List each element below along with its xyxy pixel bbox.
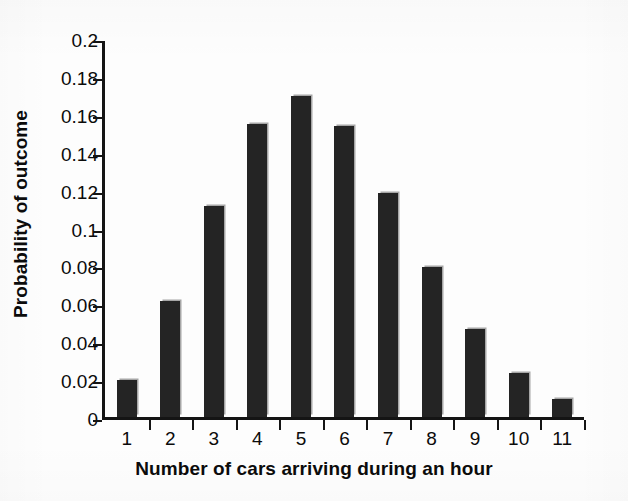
x-axis-tick-label: 3: [209, 428, 220, 450]
y-axis-tick-label: 0.12: [40, 182, 98, 204]
bar: [552, 399, 572, 417]
bar: [378, 193, 398, 417]
y-axis-tick-mark: [93, 231, 102, 233]
y-axis-tick-mark: [93, 382, 102, 384]
y-axis-tick-label: 0.06: [40, 295, 98, 317]
y-axis-tick-mark: [93, 117, 102, 119]
y-axis-tick-mark: [93, 155, 102, 157]
y-axis-tick-mark: [93, 344, 102, 346]
x-axis-tick-label: 7: [383, 428, 394, 450]
y-axis-tick-label: 0.1: [40, 220, 98, 242]
plot-area: [102, 41, 584, 420]
bar: [117, 380, 137, 417]
x-axis-title: Number of cars arriving during an hour: [0, 458, 628, 480]
x-axis-tick-label: 6: [339, 428, 350, 450]
bar-slot: [323, 41, 367, 417]
x-axis-tick-label: 4: [252, 428, 263, 450]
bar: [509, 373, 529, 417]
y-axis-title: Probability of outcome: [4, 4, 38, 424]
y-axis-tick-mark: [93, 420, 102, 422]
y-axis-tick-label: 0.2: [40, 30, 98, 52]
bar-slot: [453, 41, 497, 417]
bar: [204, 206, 224, 417]
y-axis-tick-label: 0.04: [40, 333, 98, 355]
bar-chart-figure: Probability of outcome 00.020.040.060.08…: [0, 0, 628, 501]
y-axis-tick-mark: [93, 193, 102, 195]
bar-slot: [192, 41, 236, 417]
y-axis-tick-mark: [93, 79, 102, 81]
y-axis-tick-label: 0.18: [40, 68, 98, 90]
x-axis-tick-label: 8: [426, 428, 437, 450]
y-axis-tick-label: 0: [40, 409, 98, 431]
bar-slot: [540, 41, 584, 417]
y-axis-tick-label: 0.16: [40, 106, 98, 128]
bar: [465, 329, 485, 417]
bar-slot: [366, 41, 410, 417]
y-axis-tick-labels: 00.020.040.060.080.10.120.140.160.180.2: [40, 41, 98, 420]
y-axis-tick-label: 0.08: [40, 257, 98, 279]
bar-slot: [149, 41, 193, 417]
y-axis-tick-label: 0.02: [40, 371, 98, 393]
x-axis-tick-label: 9: [470, 428, 481, 450]
y-axis-tick-mark: [93, 306, 102, 308]
bar: [291, 96, 311, 417]
x-axis-tick-label: 11: [552, 428, 572, 450]
x-axis-tick-label: 10: [508, 428, 529, 450]
y-axis-tick-label: 0.14: [40, 144, 98, 166]
bar: [334, 126, 354, 417]
bar-slot: [497, 41, 541, 417]
y-axis-tick-mark: [93, 41, 102, 43]
bar: [422, 267, 442, 417]
x-axis-tick-mark: [584, 420, 586, 430]
bar: [247, 124, 267, 417]
x-axis-tick-label: 2: [165, 428, 176, 450]
x-axis-tick-labels: 1234567891011: [105, 428, 584, 454]
y-axis-tick-mark: [93, 268, 102, 270]
bar: [160, 301, 180, 417]
bar-slot: [279, 41, 323, 417]
bar-slot: [105, 41, 149, 417]
bar-slot: [410, 41, 454, 417]
bar-slot: [236, 41, 280, 417]
bars-layer: [105, 41, 584, 417]
x-axis-tick-label: 1: [121, 428, 132, 450]
x-axis-line: [102, 417, 584, 420]
x-axis-tick-label: 5: [296, 428, 307, 450]
